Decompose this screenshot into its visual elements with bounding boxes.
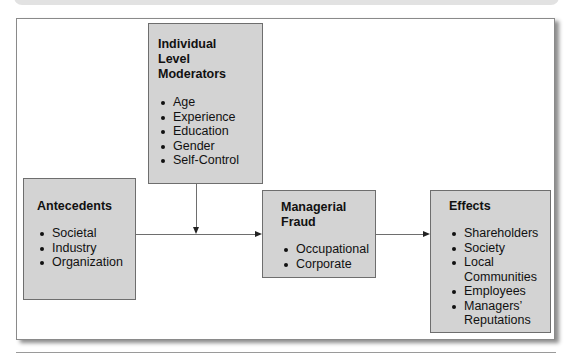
list-item: Society	[449, 241, 550, 256]
title-line: Moderators	[158, 67, 262, 82]
moderators-box: Individual Level Moderators Age Experien…	[148, 23, 263, 184]
effects-list: Shareholders Society LocalCommunities Em…	[449, 226, 550, 328]
item-text: Employees	[464, 284, 526, 298]
title-line: Individual	[158, 37, 262, 52]
list-item: Experience	[158, 110, 262, 125]
list-item: Employees	[449, 284, 550, 299]
antecedents-to-fraud-line	[135, 234, 255, 235]
antecedents-title: Antecedents	[37, 199, 135, 214]
top-band	[14, 0, 559, 5]
list-item: Self-Control	[158, 153, 262, 168]
bottom-rule	[16, 352, 556, 353]
effects-title: Effects	[449, 199, 550, 214]
title-line: Level	[158, 52, 262, 67]
arrow-to-effects-icon	[423, 231, 430, 237]
item-text: Managers’	[464, 299, 550, 314]
list-item: Age	[158, 95, 262, 110]
antecedents-box: Antecedents Societal Industry Organizati…	[23, 178, 136, 300]
list-item: Societal	[37, 226, 135, 241]
list-item: Gender	[158, 139, 262, 154]
list-item: Corporate	[281, 257, 375, 272]
fraud-list: Occupational Corporate	[281, 242, 375, 271]
item-text: Reputations	[464, 313, 550, 328]
antecedents-list: Societal Industry Organization	[37, 226, 135, 270]
arrow-to-fraud-icon	[255, 231, 262, 237]
list-item: Shareholders	[449, 226, 550, 241]
list-item: LocalCommunities	[449, 255, 550, 284]
title-line: Fraud	[281, 215, 375, 230]
moderators-title: Individual Level Moderators	[158, 37, 262, 82]
effects-box: Effects Shareholders Society LocalCommun…	[430, 190, 551, 333]
item-text: Communities	[464, 270, 550, 285]
list-item: Managers’Reputations	[449, 299, 550, 328]
fraud-title: Managerial Fraud	[281, 200, 375, 230]
item-text: Society	[464, 241, 505, 255]
fraud-box: Managerial Fraud Occupational Corporate	[262, 190, 376, 278]
moderators-list: Age Experience Education Gender Self-Con…	[158, 95, 262, 168]
arrow-down-icon	[193, 227, 199, 234]
title-line: Managerial	[281, 200, 375, 215]
list-item: Organization	[37, 255, 135, 270]
list-item: Occupational	[281, 242, 375, 257]
list-item: Industry	[37, 241, 135, 256]
item-text: Local	[464, 255, 550, 270]
list-item: Education	[158, 124, 262, 139]
item-text: Shareholders	[464, 226, 538, 240]
fraud-to-effects-line	[375, 234, 423, 235]
moderator-line	[196, 184, 197, 228]
